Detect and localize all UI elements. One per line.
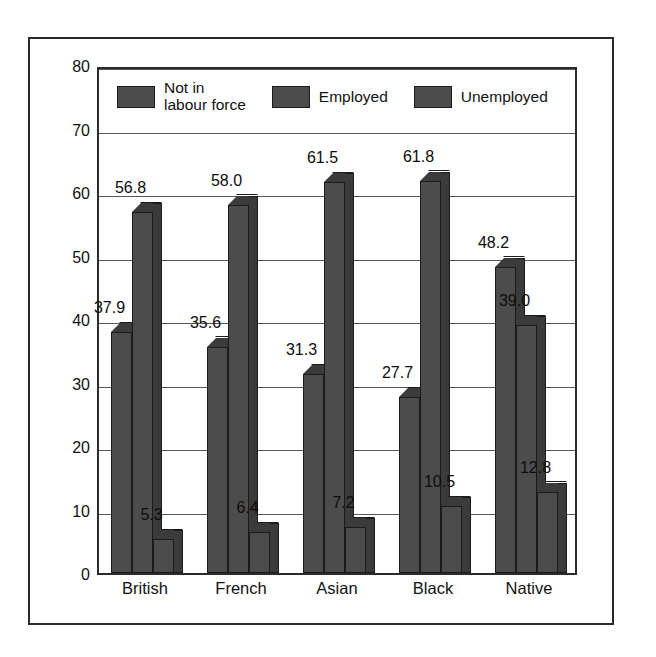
legend-entry[interactable]: Not in labour force	[117, 80, 246, 113]
bar-group: 48.239.012.8	[483, 69, 579, 573]
bar-value-label: 37.9	[94, 299, 125, 317]
legend-entry[interactable]: Unemployed	[414, 86, 548, 108]
x-axis-tick-label: Black	[413, 579, 453, 598]
bar-group: 37.956.85.3	[99, 69, 195, 573]
bar-value-label: 39.0	[499, 292, 530, 310]
bar[interactable]	[441, 506, 462, 573]
bar-top-face	[516, 316, 537, 325]
legend-label: Not in labour force	[164, 80, 246, 113]
bar-front-face	[516, 325, 537, 573]
bar-value-label: 27.7	[382, 364, 413, 382]
y-axis-tick-label: 60	[72, 185, 90, 203]
bar-top-face	[324, 173, 345, 182]
bar-top-face	[132, 203, 153, 212]
bars-layer: 37.956.85.335.658.06.431.361.57.227.761.…	[99, 69, 575, 573]
bar-value-label: 5.3	[140, 506, 162, 524]
bar-top-face	[303, 365, 324, 374]
legend-swatch-employed	[272, 86, 310, 108]
bar-side-face	[345, 173, 354, 573]
chart-figure-frame: Percentage 80706050403020100 37.956.85.3…	[28, 37, 614, 625]
bar-side-face	[366, 518, 375, 573]
bar-front-face	[153, 539, 174, 573]
bar-value-label: 6.4	[236, 499, 258, 517]
y-axis-tick-labels: 80706050403020100	[50, 67, 94, 575]
bar-value-label: 61.8	[403, 148, 434, 166]
bar-value-label: 56.8	[115, 179, 146, 197]
bar-front-face	[207, 347, 228, 573]
legend-label: Unemployed	[461, 89, 548, 106]
bar-side-face	[174, 530, 183, 573]
bar-front-face	[303, 374, 324, 573]
y-axis-tick-label: 20	[72, 439, 90, 457]
bar-side-face	[462, 497, 471, 573]
bar-front-face	[345, 527, 366, 573]
bar[interactable]	[399, 397, 420, 573]
bar-value-label: 12.8	[520, 459, 551, 477]
bar[interactable]	[420, 181, 441, 573]
bar[interactable]	[303, 374, 324, 573]
legend-entry[interactable]: Employed	[272, 86, 388, 108]
bar-front-face	[441, 506, 462, 573]
bar-front-face	[324, 182, 345, 573]
bar[interactable]	[207, 347, 228, 573]
bar[interactable]	[228, 205, 249, 573]
bar-value-label: 48.2	[478, 234, 509, 252]
bar-front-face	[420, 181, 441, 573]
legend-swatch-unemployed	[414, 86, 452, 108]
bar[interactable]	[249, 532, 270, 573]
bar[interactable]	[495, 267, 516, 573]
bar[interactable]	[153, 539, 174, 573]
bar-value-label: 58.0	[211, 172, 242, 190]
bar-value-label: 7.2	[332, 494, 354, 512]
x-axis-tick-label: French	[215, 579, 266, 598]
bar-side-face	[558, 483, 567, 573]
bar-value-label: 61.5	[307, 149, 338, 167]
bar-front-face	[495, 267, 516, 573]
y-axis-tick-label: 50	[72, 249, 90, 267]
bar-front-face	[111, 332, 132, 573]
bar-top-face	[495, 258, 516, 267]
bar-front-face	[537, 492, 558, 573]
bar[interactable]	[324, 182, 345, 573]
bar[interactable]	[111, 332, 132, 573]
plot-area: 37.956.85.335.658.06.431.361.57.227.761.…	[97, 67, 577, 575]
x-axis-tick-label: Native	[506, 579, 553, 598]
bar-front-face	[399, 397, 420, 573]
bar-top-face	[441, 497, 462, 506]
y-axis-tick-label: 70	[72, 122, 90, 140]
bar[interactable]	[537, 492, 558, 573]
bar-value-label: 35.6	[190, 314, 221, 332]
bar-front-face	[249, 532, 270, 573]
bar-top-face	[345, 518, 366, 527]
bar-value-label: 31.3	[286, 341, 317, 359]
y-axis-tick-label: 80	[72, 58, 90, 76]
x-axis-tick-label: Asian	[316, 579, 357, 598]
bar-top-face	[111, 323, 132, 332]
bar-top-face	[207, 338, 228, 347]
bar-top-face	[399, 388, 420, 397]
bar-top-face	[420, 172, 441, 181]
bar-top-face	[537, 483, 558, 492]
bar-top-face	[153, 530, 174, 539]
bar-group: 27.761.810.5	[387, 69, 483, 573]
bar-side-face	[270, 523, 279, 573]
bar-value-label: 10.5	[424, 473, 455, 491]
bar-group: 31.361.57.2	[291, 69, 387, 573]
y-axis-tick-label: 30	[72, 376, 90, 394]
bar-top-face	[228, 196, 249, 205]
y-axis-tick-label: 10	[72, 503, 90, 521]
legend-swatch-not-in-labour-force	[117, 86, 155, 108]
x-axis-tick-label: British	[122, 579, 168, 598]
y-axis-tick-label: 40	[72, 312, 90, 330]
y-axis-tick-label: 0	[81, 566, 90, 584]
legend-label: Employed	[319, 89, 388, 106]
bar[interactable]	[516, 325, 537, 573]
x-axis-tick-labels: BritishFrenchAsianBlackNative	[97, 579, 577, 609]
bar[interactable]	[345, 527, 366, 573]
bar-front-face	[228, 205, 249, 573]
chart-legend: Not in labour forceEmployedUnemployed	[99, 69, 575, 125]
bar-top-face	[249, 523, 270, 532]
bar-group: 35.658.06.4	[195, 69, 291, 573]
